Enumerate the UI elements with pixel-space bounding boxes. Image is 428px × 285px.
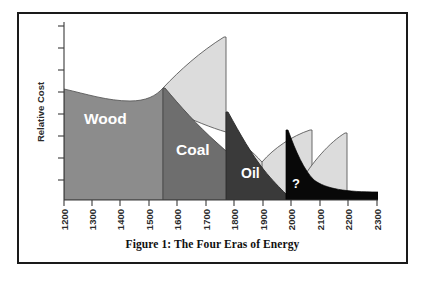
x-axis-ticks <box>64 200 377 206</box>
x-tick-label: 2300 <box>372 209 383 230</box>
x-tick-label: 1200 <box>59 209 70 230</box>
x-tick-label: 2200 <box>343 209 354 230</box>
x-tick-label: 1400 <box>115 209 126 230</box>
wood-area-path <box>64 88 163 200</box>
era-label-coal: Coal <box>176 141 210 158</box>
x-axis-tick-labels: 1200 1300 1400 1500 1600 1700 1800 1900 … <box>59 209 383 230</box>
y-axis-title: Relative Cost <box>35 81 46 142</box>
x-tick-label: 2000 <box>286 209 297 230</box>
figure-caption: Figure 1: The Four Eras of Energy <box>17 238 408 250</box>
y-axis-ticks <box>58 26 64 180</box>
x-tick-label: 1500 <box>144 209 155 230</box>
x-tick-label: 1800 <box>229 209 240 230</box>
era-label-wood: Wood <box>84 110 127 127</box>
era-label-oil: Oil <box>241 165 260 181</box>
x-tick-label: 1900 <box>258 209 269 230</box>
wood-era-area <box>64 88 163 200</box>
figure-root: 1200 1300 1400 1500 1600 1700 1800 1900 … <box>0 0 428 285</box>
era-label-unknown: ? <box>292 176 300 191</box>
x-tick-label: 1700 <box>201 209 212 230</box>
x-tick-label: 1600 <box>172 209 183 230</box>
x-tick-label: 1300 <box>87 209 98 230</box>
x-tick-label: 2100 <box>315 209 326 230</box>
